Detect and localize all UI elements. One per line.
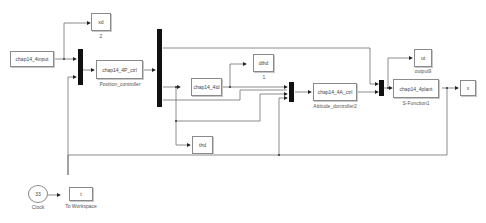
block-clock-caption: Clock	[32, 204, 45, 210]
block-ut-caption: output9	[415, 68, 432, 74]
block-ut[interactable]: ut	[414, 49, 432, 67]
block-attitude-controller[interactable]: chap14_4A_ctrl	[313, 83, 357, 101]
block-x[interactable]: x	[460, 80, 476, 96]
block-clock[interactable]: 33	[28, 185, 48, 203]
block-thd[interactable]: thd	[192, 136, 213, 154]
block-td[interactable]: chap14_4td	[191, 78, 222, 96]
block-xd-caption: 2	[100, 33, 103, 39]
mux-plant-input[interactable]	[379, 80, 384, 96]
mux-main[interactable]	[157, 29, 162, 107]
block-input[interactable]: chap14_4input	[10, 51, 54, 67]
block-position-controller[interactable]: chap14_4P_ctrl	[96, 60, 143, 79]
block-dthd[interactable]: dthd	[253, 54, 274, 72]
block-xd[interactable]: xd	[91, 13, 111, 31]
block-to-workspace-caption: To Workspace	[65, 203, 97, 209]
block-plant[interactable]: chap14_4plant	[393, 79, 439, 98]
mux-attitude-input[interactable]	[289, 82, 294, 102]
block-dthd-caption: 1	[263, 74, 266, 80]
block-attitude-controller-caption: Attitude_dontroller2	[313, 103, 356, 109]
block-position-controller-caption: Position_controller	[99, 81, 140, 87]
mux-position-input[interactable]	[78, 49, 83, 85]
block-plant-caption: S-Function1	[403, 100, 430, 106]
block-to-workspace[interactable]: t	[69, 187, 93, 201]
